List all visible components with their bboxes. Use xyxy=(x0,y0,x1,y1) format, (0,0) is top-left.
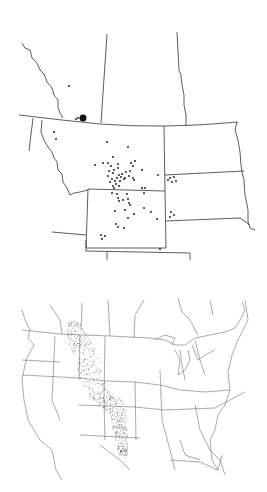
record-dot xyxy=(55,138,57,140)
record-dot xyxy=(118,174,120,176)
idaho-washington-boundary xyxy=(29,118,33,151)
record-dot xyxy=(141,187,143,189)
record-dot xyxy=(122,199,124,201)
record-dot xyxy=(118,200,120,202)
record-dot xyxy=(128,175,130,177)
record-dot xyxy=(106,141,108,143)
record-dot xyxy=(132,177,134,179)
record-dot xyxy=(77,117,79,119)
continental-map-svg xyxy=(0,240,267,492)
great-lakes xyxy=(155,335,215,375)
regional-distribution-map xyxy=(0,0,267,250)
record-dot xyxy=(121,173,123,175)
montana-idaho-boundary xyxy=(41,120,88,195)
record-dot xyxy=(128,202,130,204)
record-dot xyxy=(115,183,117,185)
record-dot xyxy=(117,197,119,199)
record-dot xyxy=(100,234,102,236)
record-dot xyxy=(133,213,135,215)
record-dot xyxy=(126,193,128,195)
record-dot xyxy=(112,185,114,187)
record-dot xyxy=(129,204,131,206)
record-dot xyxy=(113,187,115,189)
record-dot xyxy=(143,207,145,209)
idaho-utah-boundary xyxy=(52,232,86,235)
east-coast xyxy=(210,300,248,470)
record-dot xyxy=(75,118,77,120)
record-dot xyxy=(134,160,136,162)
record-dot xyxy=(120,176,122,178)
canada-province-lines xyxy=(50,298,213,338)
record-dot xyxy=(169,216,171,218)
record-dot xyxy=(127,146,129,148)
record-dot xyxy=(116,193,118,195)
record-dot xyxy=(108,170,110,172)
record-dot xyxy=(144,187,146,189)
record-dot xyxy=(102,162,104,164)
record-dot xyxy=(173,176,175,178)
bc-alberta-boundary xyxy=(22,43,63,118)
record-dot xyxy=(107,175,109,177)
record-dot xyxy=(143,192,145,194)
record-dot xyxy=(173,214,175,216)
record-dot xyxy=(116,177,118,179)
record-dot xyxy=(157,174,159,176)
alberta-saskatchewan-boundary xyxy=(101,34,107,123)
record-dot xyxy=(114,210,116,212)
record-dot xyxy=(111,178,113,180)
record-dot xyxy=(117,226,119,228)
south-dakota-nebraska-boundary xyxy=(166,218,250,225)
record-dot xyxy=(117,167,119,169)
record-dot xyxy=(119,180,121,182)
record-dot xyxy=(156,218,158,220)
record-dot xyxy=(171,181,173,183)
record-dot xyxy=(127,198,129,200)
record-dots xyxy=(53,85,177,250)
record-dot xyxy=(110,165,112,167)
montana-dakota-boundary xyxy=(164,126,165,191)
record-dot xyxy=(169,177,171,179)
record-dot xyxy=(94,164,96,166)
record-dot xyxy=(104,235,106,237)
record-dot xyxy=(141,169,143,171)
record-dot xyxy=(167,179,169,181)
record-dot xyxy=(109,181,111,183)
colorado-border-fragment xyxy=(86,240,190,260)
record-dot xyxy=(175,180,177,182)
record-dot xyxy=(170,211,172,213)
record-dot xyxy=(68,85,70,87)
record-dot xyxy=(112,156,114,158)
us-canada-border xyxy=(19,115,238,126)
record-dot xyxy=(125,171,127,173)
regional-map-svg xyxy=(0,0,267,250)
record-dot xyxy=(130,162,132,164)
saskatchewan-manitoba-boundary xyxy=(177,32,186,126)
record-dot xyxy=(124,209,126,211)
record-dot xyxy=(114,180,116,182)
record-dot xyxy=(111,192,113,194)
record-dot xyxy=(132,165,134,167)
record-dot xyxy=(118,185,120,187)
record-dot xyxy=(117,163,119,165)
record-dot xyxy=(127,217,129,219)
record-dot xyxy=(115,223,117,225)
record-dot xyxy=(123,178,125,180)
record-dot xyxy=(53,131,55,133)
type-locality-marker xyxy=(80,115,87,122)
record-dot xyxy=(123,227,125,229)
record-dot xyxy=(113,169,115,171)
record-dot xyxy=(112,172,114,174)
north-south-dakota-boundary xyxy=(165,171,244,175)
dakota-east-boundary xyxy=(235,122,255,230)
record-dot xyxy=(133,179,135,181)
record-dot xyxy=(150,211,152,213)
record-dot xyxy=(107,162,109,164)
continental-range-map xyxy=(0,240,267,492)
record-dot xyxy=(129,170,131,172)
